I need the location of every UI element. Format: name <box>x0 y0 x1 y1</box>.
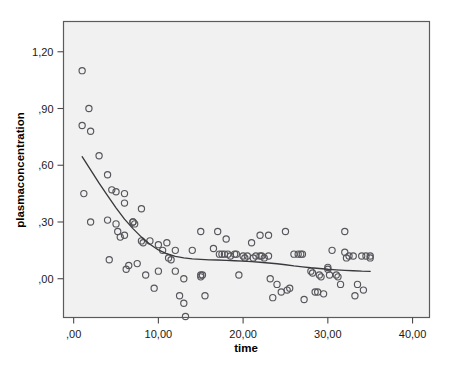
y-tick-label: ,60 <box>38 159 53 171</box>
x-tick-label: 20,00 <box>229 328 257 340</box>
y-tick-label: ,30 <box>38 216 53 228</box>
y-tick-label: ,00 <box>38 273 53 285</box>
scatter-plot-svg: ,0010,0020,0030,0040,00 ,00,30,60,901,20… <box>0 0 459 377</box>
y-tick-label: 1,20 <box>32 46 53 58</box>
x-tick-label: 30,00 <box>314 328 342 340</box>
x-tick-label: 40,00 <box>399 328 427 340</box>
x-tick-label: ,00 <box>66 328 81 340</box>
x-tick-label: 10,00 <box>145 328 173 340</box>
y-tick-label: ,90 <box>38 103 53 115</box>
y-axis-title: plasmaconcentration <box>14 112 26 228</box>
figure-container: ,0010,0020,0030,0040,00 ,00,30,60,901,20… <box>0 0 459 377</box>
plot-area-frame <box>64 22 430 318</box>
x-axis-title: time <box>234 342 258 354</box>
